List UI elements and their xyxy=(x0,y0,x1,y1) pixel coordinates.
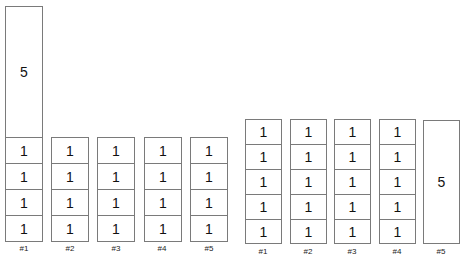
block-value-1: 1 xyxy=(379,194,416,220)
block-value-1: 1 xyxy=(245,219,282,244)
block-value-1: 1 xyxy=(190,215,228,242)
block-value-1: 1 xyxy=(334,119,371,145)
block-value-1: 1 xyxy=(290,144,327,170)
block-value-1: 1 xyxy=(334,144,371,170)
block-value-1: 1 xyxy=(334,169,371,195)
block-value-1: 1 xyxy=(190,137,228,164)
left-column-1: 5 1 1 1 1 xyxy=(5,6,43,241)
block-value-1: 1 xyxy=(5,189,43,216)
block-value-1: 1 xyxy=(245,119,282,145)
right-column-label-5: #5 xyxy=(421,247,461,256)
block-value-1: 1 xyxy=(245,194,282,220)
block-value-1: 1 xyxy=(144,215,182,242)
block-value-1: 1 xyxy=(97,137,135,164)
left-column-label-1: #1 xyxy=(4,244,44,253)
right-column-label-1: #1 xyxy=(243,247,283,256)
block-value-1: 1 xyxy=(144,137,182,164)
block-value-1: 1 xyxy=(51,163,89,190)
block-value-1: 1 xyxy=(334,219,371,244)
block-value-5: 5 xyxy=(423,120,460,244)
block-value-1: 1 xyxy=(190,189,228,216)
block-value-1: 1 xyxy=(97,189,135,216)
block-value-1: 1 xyxy=(245,144,282,170)
block-value-1: 1 xyxy=(144,163,182,190)
block-value-1: 1 xyxy=(245,169,282,195)
block-value-1: 1 xyxy=(290,119,327,145)
block-value-1: 1 xyxy=(97,163,135,190)
block-value-1: 1 xyxy=(379,169,416,195)
block-value-1: 1 xyxy=(190,163,228,190)
block-value-1: 1 xyxy=(290,169,327,195)
block-value-1: 1 xyxy=(5,215,43,242)
right-column-label-2: #2 xyxy=(288,247,328,256)
block-value-1: 1 xyxy=(51,215,89,242)
left-column-label-4: #4 xyxy=(142,244,182,253)
block-value-1: 1 xyxy=(97,215,135,242)
left-column-label-3: #3 xyxy=(96,244,136,253)
block-value-1: 1 xyxy=(51,137,89,164)
block-value-1: 1 xyxy=(379,119,416,145)
block-value-1: 1 xyxy=(379,144,416,170)
block-value-1: 1 xyxy=(290,219,327,244)
right-column-label-4: #4 xyxy=(377,247,417,256)
block-value-1: 1 xyxy=(334,194,371,220)
block-value-1: 1 xyxy=(379,219,416,244)
block-value-1: 1 xyxy=(290,194,327,220)
block-value-1: 1 xyxy=(5,137,43,164)
left-column-label-2: #2 xyxy=(50,244,90,253)
block-value-5: 5 xyxy=(5,6,43,138)
right-column-label-3: #3 xyxy=(332,247,372,256)
block-value-1: 1 xyxy=(5,163,43,190)
left-column-label-5: #5 xyxy=(189,244,229,253)
block-value-1: 1 xyxy=(144,189,182,216)
block-value-1: 1 xyxy=(51,189,89,216)
